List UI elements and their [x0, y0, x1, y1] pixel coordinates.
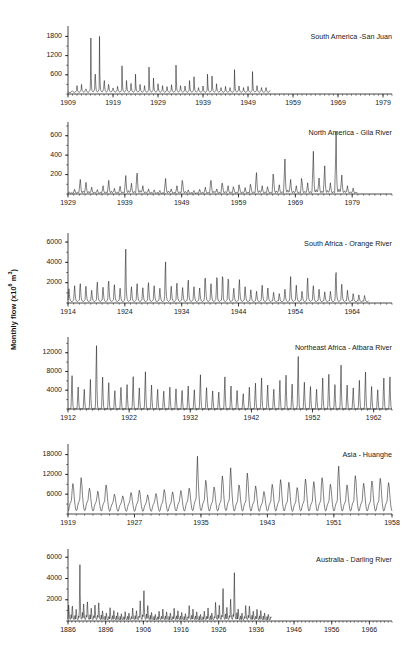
y-tick-label: 2000 [0, 278, 62, 285]
chart-panel-atbara-river: 4000800012000191219221932194219521962Nor… [0, 333, 406, 440]
panel-title: Asia - Huanghe [342, 450, 392, 459]
y-tick-label: 400 [0, 151, 62, 158]
y-tick-label: 6000 [0, 238, 62, 245]
x-tick-label: 1932 [170, 414, 210, 421]
x-tick-label: 1926 [199, 626, 239, 633]
x-tick-label: 1896 [86, 626, 126, 633]
chart-panel-darling-river: 2000400060001886189619061916192619361946… [0, 545, 406, 655]
x-tick-label: 1959 [273, 99, 313, 106]
x-tick-label: 1929 [48, 199, 88, 206]
x-tick-label: 1964 [332, 308, 372, 315]
x-tick-label: 1951 [314, 519, 354, 526]
series-line [68, 565, 271, 620]
y-tick-label: 12000 [0, 348, 62, 355]
y-tick-label: 18000 [0, 450, 62, 457]
chart-panel-gila-river: 200400600192919391949195919691979North A… [0, 116, 406, 227]
x-tick-label: 1979 [332, 199, 372, 206]
x-tick-label: 1919 [93, 99, 133, 106]
x-tick-label: 1935 [181, 519, 221, 526]
y-tick-label: 4000 [0, 258, 62, 265]
panel-title: Northeast Africa - Atbara River [295, 343, 392, 352]
x-tick-label: 1936 [236, 626, 276, 633]
y-tick-label: 600 [0, 131, 62, 138]
y-tick-label: 4000 [0, 574, 62, 581]
panel-title: South America -San Juan [310, 32, 392, 41]
x-tick-label: 1966 [349, 626, 389, 633]
y-tick-label: 1200 [0, 51, 62, 58]
x-tick-label: 1919 [48, 519, 88, 526]
x-tick-label: 1916 [161, 626, 201, 633]
chart-panel-san-juan: 6001200180019091919192919391949195919691… [0, 14, 406, 116]
x-tick-label: 1939 [105, 199, 145, 206]
y-tick-label: 8000 [0, 367, 62, 374]
y-tick-label: 6000 [0, 553, 62, 560]
x-tick-label: 1954 [275, 308, 315, 315]
x-tick-label: 1934 [162, 308, 202, 315]
x-tick-label: 1912 [48, 414, 88, 421]
x-tick-label: 1956 [312, 626, 352, 633]
y-tick-label: 1800 [0, 32, 62, 39]
x-tick-label: 1958 [372, 519, 406, 526]
x-tick-label: 1924 [105, 308, 145, 315]
y-tick-label: 2000 [0, 595, 62, 602]
x-tick-label: 1886 [48, 626, 88, 633]
x-tick-label: 1969 [275, 199, 315, 206]
y-tick-label: 6000 [0, 490, 62, 497]
series-line [68, 456, 392, 511]
x-tick-label: 1906 [123, 626, 163, 633]
x-tick-label: 1946 [274, 626, 314, 633]
x-tick-label: 1943 [247, 519, 287, 526]
x-tick-label: 1927 [114, 519, 154, 526]
x-tick-label: 1952 [293, 414, 333, 421]
panel-title: South Africa - Orange River [304, 239, 392, 248]
y-tick-label: 200 [0, 170, 62, 177]
x-tick-label: 1922 [109, 414, 149, 421]
y-tick-label: 12000 [0, 470, 62, 477]
y-tick-label: 4000 [0, 386, 62, 393]
panel-title: Australia - Darling River [316, 555, 392, 564]
x-tick-label: 1909 [48, 99, 88, 106]
x-tick-label: 1949 [162, 199, 202, 206]
x-tick-label: 1959 [219, 199, 259, 206]
x-tick-label: 1962 [354, 414, 394, 421]
x-tick-label: 1929 [138, 99, 178, 106]
panel-title: North America - Gila River [309, 128, 392, 137]
x-tick-label: 1939 [183, 99, 223, 106]
series-line [68, 132, 357, 194]
x-tick-label: 1949 [228, 99, 268, 106]
series-line [68, 346, 392, 409]
chart-panel-huanghe: 60001200018000191919271935194319511958As… [0, 440, 406, 545]
x-tick-label: 1969 [318, 99, 358, 106]
series-line [68, 249, 369, 302]
x-tick-label: 1979 [363, 99, 403, 106]
chart-panel-orange-river: 200040006000191419241934194419541964Sout… [0, 227, 406, 333]
y-tick-label: 600 [0, 70, 62, 77]
figure-root: Monthly flow (x106 m3) 60012001800190919… [0, 0, 406, 664]
x-tick-label: 1944 [219, 308, 259, 315]
series-line [68, 36, 270, 92]
x-tick-label: 1914 [48, 308, 88, 315]
x-tick-label: 1942 [231, 414, 271, 421]
